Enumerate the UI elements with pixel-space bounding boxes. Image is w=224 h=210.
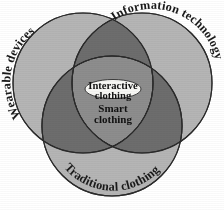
venn-diagram: Wearable devices Information technology … — [0, 0, 224, 210]
venn-diagram-canvas: Wearable devices Information technology … — [0, 0, 224, 210]
interactive-clothing-line-2: clothing — [95, 90, 132, 101]
smart-clothing-line-2: clothing — [94, 113, 132, 125]
